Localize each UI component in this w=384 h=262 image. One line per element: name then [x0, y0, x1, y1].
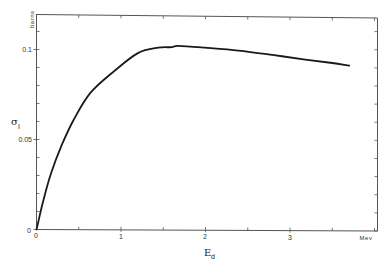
x-unit-label: Mev [360, 235, 373, 241]
x-tick-label-1: 1 [119, 233, 123, 240]
y-tick-label-0: 0 [27, 227, 31, 234]
cross-section-chart: 0 0.05 0.1 barns σ I 0 1 2 3 Mev E d [0, 0, 384, 262]
x-tick-label-3: 3 [288, 234, 292, 241]
y-tick-label-0.1: 0.1 [22, 46, 32, 53]
cross-section-curve [37, 46, 350, 230]
y-axis-title: σ [11, 116, 18, 127]
x-tick-label-0: 0 [34, 232, 38, 239]
y-axis-title-subscript: I [18, 123, 20, 130]
y-unit-label: barns [29, 10, 35, 28]
y-tick-label-0.05: 0.05 [18, 136, 32, 143]
x-axis-title-subscript: d [211, 253, 215, 260]
plot-frame [37, 14, 378, 231]
bottom-axis [37, 230, 378, 232]
top-axis [37, 15, 378, 19]
x-tick-label-2: 2 [203, 233, 207, 240]
